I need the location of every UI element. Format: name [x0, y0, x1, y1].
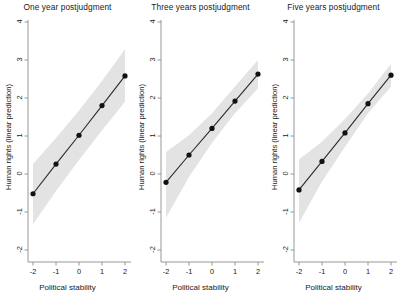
chart-panel-one-year: One year postjudgment Human rights (line… — [0, 0, 135, 303]
x-tick-label: 2 — [250, 267, 266, 276]
data-point-marker — [342, 130, 347, 135]
y-tick-label: 2 — [148, 93, 157, 103]
data-point-marker — [319, 159, 324, 164]
y-tick-label: 0 — [281, 169, 290, 179]
data-point-marker — [122, 73, 127, 78]
plot-area — [133, 0, 268, 303]
y-tick-label: 3 — [281, 55, 290, 65]
x-axis-label: Political stability — [133, 283, 268, 292]
y-tick-label: -1 — [281, 207, 290, 217]
confidence-band — [299, 64, 391, 223]
data-point-marker — [53, 162, 58, 167]
x-tick-label: 0 — [204, 267, 220, 276]
x-axis-label: Political stability — [0, 283, 135, 292]
y-tick-label: 4 — [281, 17, 290, 27]
data-point-marker — [255, 71, 260, 76]
y-tick-label: 2 — [281, 93, 290, 103]
data-point-marker — [232, 98, 237, 103]
x-tick-label: -2 — [158, 267, 174, 276]
y-tick-label: 3 — [15, 55, 24, 65]
y-tick-label: 0 — [148, 169, 157, 179]
data-point-marker — [30, 191, 35, 196]
plot-area — [0, 0, 135, 303]
x-tick-label: 2 — [117, 267, 133, 276]
data-point-marker — [99, 103, 104, 108]
x-tick-label: -1 — [48, 267, 64, 276]
data-point-marker — [296, 187, 301, 192]
data-point-marker — [365, 101, 370, 106]
y-tick-label: -2 — [148, 245, 157, 255]
y-tick-label: -2 — [281, 245, 290, 255]
data-point-marker — [76, 133, 81, 138]
chart-panel-three-years: Three years postjudgment Human rights (l… — [133, 0, 268, 303]
y-tick-label: -1 — [148, 207, 157, 217]
y-tick-label: 4 — [15, 17, 24, 27]
plot-area — [266, 0, 401, 303]
x-tick-label: 0 — [71, 267, 87, 276]
x-tick-label: 0 — [337, 267, 353, 276]
chart-panel-five-years: Five years postjudgment Human rights (li… — [266, 0, 401, 303]
y-tick-label: 3 — [148, 55, 157, 65]
x-tick-label: 2 — [383, 267, 399, 276]
x-tick-label: 1 — [360, 267, 376, 276]
y-tick-label: 0 — [15, 169, 24, 179]
x-axis-label: Political stability — [266, 283, 401, 292]
confidence-band — [166, 60, 258, 218]
data-point-marker — [388, 73, 393, 78]
data-point-marker — [163, 180, 168, 185]
marginal-effects-figure: One year postjudgment Human rights (line… — [0, 0, 406, 303]
data-point-marker — [209, 126, 214, 131]
y-tick-label: 4 — [148, 17, 157, 27]
x-tick-label: 1 — [227, 267, 243, 276]
y-tick-label: -1 — [15, 207, 24, 217]
data-point-marker — [186, 152, 191, 157]
y-tick-label: 1 — [148, 131, 157, 141]
y-tick-label: 1 — [281, 131, 290, 141]
x-tick-label: -2 — [291, 267, 307, 276]
y-tick-label: 1 — [15, 131, 24, 141]
x-tick-label: -2 — [25, 267, 41, 276]
x-tick-label: -1 — [314, 267, 330, 276]
y-tick-label: 2 — [15, 93, 24, 103]
x-tick-label: 1 — [94, 267, 110, 276]
y-tick-label: -2 — [15, 245, 24, 255]
x-tick-label: -1 — [181, 267, 197, 276]
